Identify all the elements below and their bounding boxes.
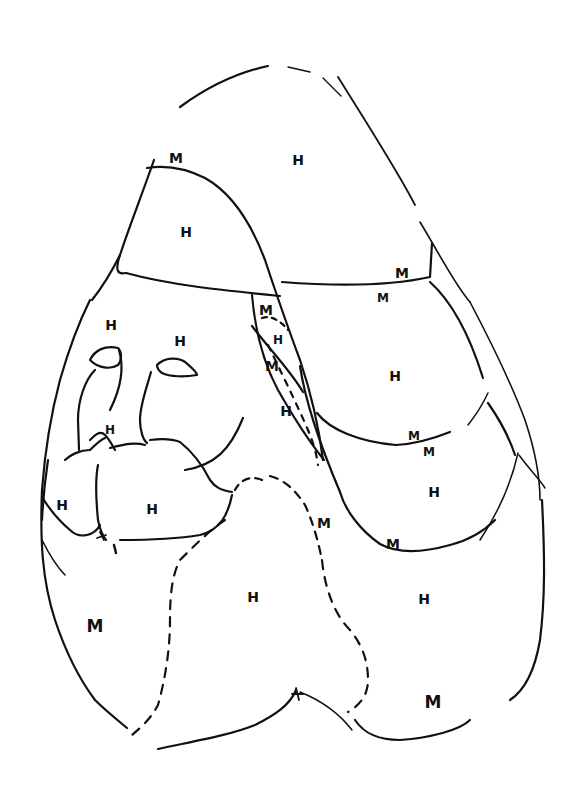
region-label: H [273,334,283,346]
region-label: M [408,430,420,442]
beard-divider-left [235,478,262,490]
region-label: H [56,498,68,512]
region-label: M [423,446,435,458]
bottom-right-lobe [355,720,470,740]
region-label: H [105,424,115,436]
region-label: M [317,516,331,530]
region-label: H [174,334,186,348]
region-label: H [418,592,430,606]
right-head-outline [338,77,415,205]
region-label: M [377,292,389,304]
region-label: M [259,303,273,317]
region-label: M [87,618,104,635]
region-label: M [425,694,442,711]
eye-outline [157,359,197,377]
region-label: M [169,151,183,165]
region-label: H [105,318,117,332]
region-label: H [389,369,401,383]
region-label: H [292,153,304,167]
moustache-right [120,495,232,540]
crown-outline [180,66,268,107]
region-label: H [428,485,440,499]
head-line-drawing [0,0,575,790]
moustache-left [42,497,100,535]
region-label: M [386,537,400,551]
region-label: H [247,590,259,604]
region-label: M [395,266,409,280]
region-label: H [146,502,158,516]
cap-outline [147,167,323,460]
region-label: H [280,404,292,418]
sketch-canvas: M H H M M H M H H M H H H M M H H H M M … [0,0,575,790]
nose-outline [90,347,121,368]
bottom-left-lobe [158,690,296,749]
region-label: H [180,225,192,239]
region-label: M [265,359,279,373]
